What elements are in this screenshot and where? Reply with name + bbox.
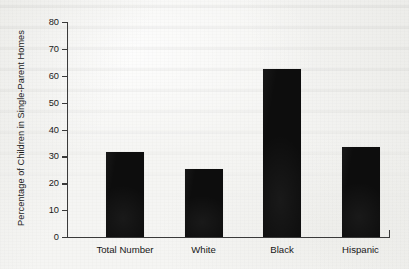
bar [263, 69, 301, 237]
y-axis-tick-mark [62, 183, 67, 184]
bar [106, 152, 144, 237]
y-axis-tick-mark [62, 210, 67, 211]
y-axis-tick-mark [62, 237, 67, 238]
y-axis-tick-label: 80 [49, 17, 59, 27]
x-axis-category-label: Hispanic [342, 244, 379, 255]
y-axis-tick-label: 0 [54, 232, 59, 242]
bar [185, 169, 223, 237]
y-axis-title: Percentage of Children in Single-Parent … [14, 8, 28, 248]
x-axis-end-tick [389, 230, 390, 238]
y-axis-tick-label: 10 [49, 205, 59, 215]
bar [342, 147, 380, 237]
y-axis-tick-mark [62, 49, 67, 50]
y-axis-tick-mark [62, 103, 67, 104]
y-axis-line [67, 22, 68, 237]
y-axis-tick-label: 40 [49, 125, 59, 135]
y-axis-tick-mark [62, 130, 67, 131]
y-axis-tick-mark [62, 76, 67, 77]
x-axis-category-label: White [191, 244, 216, 255]
y-axis-tick-label: 30 [49, 151, 59, 161]
bar-chart-figure: Percentage of Children in Single-Parent … [0, 0, 409, 269]
x-axis-line [67, 237, 390, 238]
y-axis-tick-mark [62, 22, 67, 23]
y-axis-tick-mark [62, 156, 67, 157]
y-axis-tick-label: 60 [49, 71, 59, 81]
y-axis-tick-label: 20 [49, 178, 59, 188]
y-axis-tick-label: 70 [49, 44, 59, 54]
x-axis-category-label: Black [270, 244, 293, 255]
x-axis-category-label: Total Number [96, 244, 153, 255]
plot-area: 01020304050607080 Total NumberWhiteBlack… [67, 22, 390, 237]
y-axis-tick-label: 50 [49, 98, 59, 108]
